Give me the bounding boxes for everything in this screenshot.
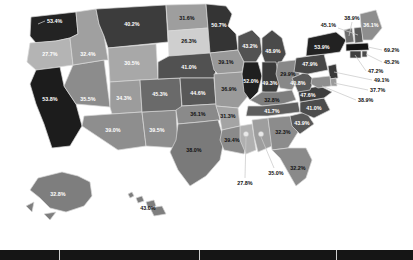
state-md[interactable] xyxy=(311,76,331,88)
state-mn[interactable] xyxy=(206,4,238,53)
label-sc: 43.9% xyxy=(294,120,309,126)
label-wy: 30.5% xyxy=(124,60,139,66)
state-ct[interactable] xyxy=(350,51,361,58)
label-al: 35.0% xyxy=(268,170,283,176)
label-oh: 29.9% xyxy=(280,71,295,77)
us-choropleth-map: 27.7% 53.8% 35.5% 32.4% 40.2% 30.5% 34.3… xyxy=(0,0,413,246)
label-wv: 40.8% xyxy=(290,80,305,86)
label-ct: 47.2% xyxy=(368,68,383,74)
label-ia: 39.1% xyxy=(218,59,233,65)
label-pa: 47.9% xyxy=(302,61,317,67)
label-fl: 32.2% xyxy=(290,165,305,171)
label-in: 49.3% xyxy=(262,80,277,86)
label-mn: 50.7% xyxy=(211,22,226,28)
callout-dot-ms xyxy=(243,131,248,136)
label-nv: 35.5% xyxy=(80,96,95,102)
state-tx[interactable] xyxy=(170,120,224,186)
choropleth-map-screenshot: 27.7% 53.8% 35.5% 32.4% 40.2% 30.5% 34.3… xyxy=(0,0,413,260)
label-tn: 41.7% xyxy=(264,108,279,114)
toolbar-segment-1[interactable] xyxy=(0,250,60,260)
label-ca: 53.8% xyxy=(42,96,57,102)
toolbar-segment-4[interactable] xyxy=(337,250,413,260)
label-ne: 41.0% xyxy=(181,64,196,70)
label-or: 27.7% xyxy=(42,51,57,57)
label-az: 39.0% xyxy=(105,127,120,133)
bottom-toolbar[interactable] xyxy=(0,250,413,260)
label-tx: 38.0% xyxy=(186,147,201,153)
label-hi: 43.0% xyxy=(140,205,155,211)
label-id: 32.4% xyxy=(80,51,95,57)
label-mt: 40.2% xyxy=(124,21,139,27)
us-map-svg: 27.7% 53.8% 35.5% 32.4% 40.2% 30.5% 34.3… xyxy=(0,0,413,246)
label-sd: 26.3% xyxy=(181,38,196,44)
label-ak: 32.8% xyxy=(50,191,65,197)
label-ny: 53.9% xyxy=(314,44,329,50)
label-nc: 41.0% xyxy=(306,105,321,111)
label-ms: 27.8% xyxy=(237,180,252,186)
label-ut: 34.3% xyxy=(116,95,131,101)
label-de: 37.7% xyxy=(370,87,385,93)
label-ma: 69.2% xyxy=(384,47,399,53)
label-ks: 44.6% xyxy=(190,90,205,96)
label-il: 52.0% xyxy=(243,78,258,84)
label-nh: 45.1% xyxy=(321,22,336,28)
label-co: 45.3% xyxy=(152,91,167,97)
toolbar-segment-3[interactable] xyxy=(200,250,337,260)
label-nm: 39.5% xyxy=(149,127,164,133)
toolbar-segment-2[interactable] xyxy=(60,250,200,260)
label-md: 38.9% xyxy=(358,97,373,103)
label-ri: 45.2% xyxy=(384,59,399,65)
leader-line-nj xyxy=(334,72,372,80)
label-la: 39.4% xyxy=(224,137,239,143)
state-ma[interactable] xyxy=(346,43,369,51)
state-hi[interactable] xyxy=(128,192,166,216)
label-wa: 53.4% xyxy=(47,18,62,24)
label-nj: 49.1% xyxy=(374,77,389,83)
label-ga: 32.3% xyxy=(275,129,290,135)
label-wi: 43.2% xyxy=(242,43,257,49)
label-ok: 36.1% xyxy=(190,111,205,117)
label-me: 36.1% xyxy=(363,22,378,28)
label-mi: 48.9% xyxy=(265,48,280,54)
label-vt: 38.9% xyxy=(344,15,359,21)
label-va: 47.6% xyxy=(300,92,315,98)
leader-line-de xyxy=(334,83,368,90)
label-ky: 32.8% xyxy=(264,97,279,103)
callout-dot-al xyxy=(258,131,263,136)
label-mo: 36.9% xyxy=(221,86,236,92)
leader-line-ma xyxy=(368,47,382,50)
label-ar: 31.3% xyxy=(220,113,235,119)
label-nd: 31.6% xyxy=(179,15,194,21)
leader-line-ri xyxy=(366,54,382,62)
